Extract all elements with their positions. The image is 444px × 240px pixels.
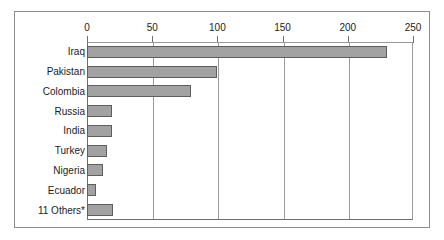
- chart-row: Ecuador: [15, 180, 431, 200]
- bar: [87, 46, 387, 58]
- category-label: Russia: [0, 106, 85, 117]
- bar-track: [87, 42, 413, 62]
- chart-row: 11 Others*: [15, 200, 431, 220]
- category-label: Iraq: [0, 46, 85, 57]
- chart-row: Nigeria: [15, 161, 431, 181]
- category-label: Colombia: [0, 86, 85, 97]
- chart-row: Turkey: [15, 141, 431, 161]
- x-axis-tick-label: 150: [274, 22, 291, 33]
- bar: [87, 204, 113, 216]
- category-label: Nigeria: [0, 165, 85, 176]
- figure-frame: 050100150200250 IraqPakistanColombiaRuss…: [14, 11, 430, 228]
- bar-track: [87, 121, 413, 141]
- category-label: Turkey: [0, 145, 85, 156]
- chart-row: Russia: [15, 101, 431, 121]
- category-label: 11 Others*: [0, 205, 85, 216]
- bar-chart: 050100150200250 IraqPakistanColombiaRuss…: [15, 12, 431, 229]
- x-axis-tick-label: 0: [84, 22, 90, 33]
- bar-track: [87, 200, 413, 220]
- bar-track: [87, 101, 413, 121]
- chart-rows: IraqPakistanColombiaRussiaIndiaTurkeyNig…: [15, 42, 431, 220]
- bar-track: [87, 62, 413, 82]
- x-axis-tick-label: 200: [339, 22, 356, 33]
- bar: [87, 164, 103, 176]
- bar-track: [87, 141, 413, 161]
- bar: [87, 125, 112, 137]
- bar: [87, 105, 112, 117]
- bar-track: [87, 161, 413, 181]
- chart-row: Pakistan: [15, 62, 431, 82]
- x-axis-tick-labels: 050100150200250: [15, 12, 431, 42]
- x-axis-tick-label: 250: [405, 22, 422, 33]
- x-axis-tick-label: 100: [209, 22, 226, 33]
- bar: [87, 85, 191, 97]
- bar-track: [87, 180, 413, 200]
- chart-row: Iraq: [15, 42, 431, 62]
- bar-track: [87, 82, 413, 102]
- bar: [87, 145, 107, 157]
- chart-row: Colombia: [15, 82, 431, 102]
- bar: [87, 184, 96, 196]
- category-label: Pakistan: [0, 66, 85, 77]
- category-label: India: [0, 125, 85, 136]
- chart-row: India: [15, 121, 431, 141]
- category-label: Ecuador: [0, 185, 85, 196]
- x-axis-tick-label: 50: [147, 22, 158, 33]
- bar: [87, 66, 217, 78]
